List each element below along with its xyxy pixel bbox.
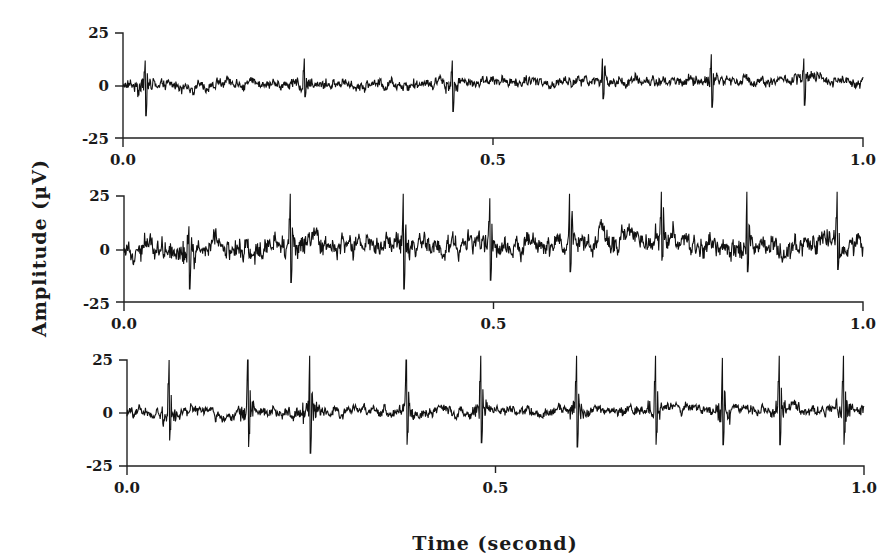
x-axis — [116, 302, 863, 311]
panel-2: 250-250.00.51.0 — [83, 187, 876, 333]
x-tick-label: 0.5 — [480, 315, 506, 333]
y-axis-title: Amplitude (µV) — [28, 159, 50, 338]
y-axis — [119, 360, 127, 475]
y-axis — [115, 33, 123, 147]
x-tick-label: 0.0 — [114, 479, 140, 497]
y-tick-label: 25 — [88, 24, 109, 42]
x-tick-label: 0.0 — [111, 315, 137, 333]
x-tick-label: 1.0 — [850, 315, 876, 333]
x-tick-label: 1.0 — [850, 151, 876, 169]
panel-1: 250-250.00.51.0 — [82, 24, 876, 169]
x-axis-title: Time (second) — [412, 532, 577, 554]
x-tick-label: 0.0 — [110, 151, 136, 169]
signal-trace — [123, 54, 863, 115]
y-tick-label: -25 — [82, 130, 109, 148]
eeg-chart: 250-250.00.51.0250-250.00.51.0250-250.00… — [0, 0, 896, 560]
y-tick-label: 25 — [92, 351, 113, 369]
y-axis — [116, 196, 124, 311]
y-tick-label: 0 — [100, 241, 110, 259]
y-tick-label: 25 — [89, 187, 110, 205]
signal-trace — [124, 192, 863, 289]
x-tick-label: 0.5 — [482, 479, 508, 497]
x-axis — [119, 466, 864, 475]
panel-3: 250-250.00.51.0 — [86, 351, 877, 497]
signal-trace — [127, 356, 864, 454]
x-tick-label: 1.0 — [851, 479, 877, 497]
y-tick-label: -25 — [86, 457, 113, 475]
x-axis — [115, 138, 863, 147]
chart-panels: 250-250.00.51.0250-250.00.51.0250-250.00… — [82, 24, 877, 497]
y-tick-label: -25 — [83, 295, 110, 313]
y-tick-label: 0 — [103, 404, 113, 422]
x-tick-label: 0.5 — [480, 151, 506, 169]
y-tick-label: 0 — [99, 77, 109, 95]
